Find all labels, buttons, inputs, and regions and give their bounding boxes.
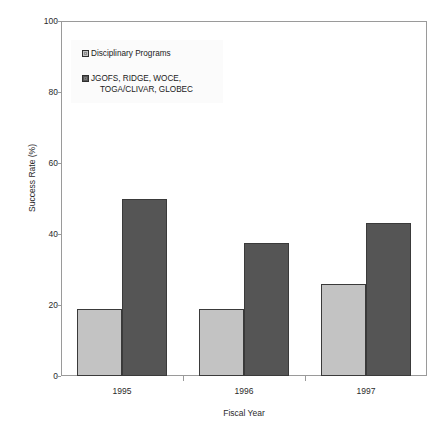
y-axis-title: Success Rate (%) [27,118,37,238]
legend: Disciplinary Programs JGOFS, RIDGE, WOCE… [71,40,223,103]
y-axis-tick-label: 80 [0,86,58,98]
bar [199,309,244,376]
bar [321,284,366,376]
bar [366,223,411,376]
x-axis-tick-label: 1995 [82,386,162,396]
legend-item-jgofs-ridge-woce-toga-clivar-globec: JGOFS, RIDGE, WOCE, TOGA/CLIVAR, GLOBEC [82,73,193,95]
legend-item-label: Disciplinary Programs [91,48,171,59]
bar [122,199,167,377]
y-axis-tick-label: 20 [0,299,58,311]
y-axis-tick-mark [56,376,61,377]
y-axis-tick-mark [56,234,61,235]
y-axis-tick-mark [56,305,61,306]
legend-swatch-icon [82,75,89,82]
bar-chart: 100806040200 Success Rate (%) 1995199619… [0,0,443,427]
y-axis-tick-mark [56,21,61,22]
y-axis-tick-mark [56,163,61,164]
y-axis-tick-mark [56,92,61,93]
x-axis-tick-mark [305,376,306,381]
bar [77,309,122,376]
legend-item-label-line2: TOGA/CLIVAR, GLOBEC [91,84,193,95]
y-axis-tick-label: 0 [0,370,58,382]
legend-swatch-icon [82,50,89,57]
x-axis-tick-label: 1996 [204,386,284,396]
x-axis-tick-mark [183,376,184,381]
legend-item-label: JGOFS, RIDGE, WOCE, [91,73,193,84]
legend-item-disciplinary-programs: Disciplinary Programs [82,48,171,59]
x-axis-tick-label: 1997 [326,386,406,396]
y-axis-tick-label: 100 [0,15,58,27]
x-axis-title: Fiscal Year [61,408,427,418]
bar [244,243,289,376]
